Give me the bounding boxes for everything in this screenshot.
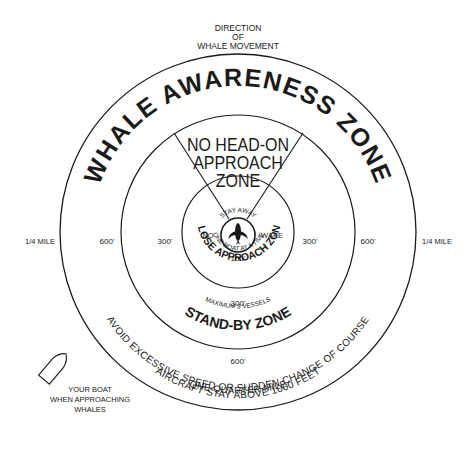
- boat-legend-line1: YOUR BOAT: [68, 385, 112, 394]
- bottom-600ft-label: 600': [231, 357, 246, 366]
- left-300ft-label: 300': [158, 237, 173, 246]
- left-600ft-label: 600': [100, 237, 115, 246]
- direction-label-line3: WHALE MOVEMENT: [197, 41, 279, 51]
- right-300ft-label: 300': [303, 237, 318, 246]
- boat-legend-line3: WHALES: [74, 405, 106, 414]
- right-quarter-mile-label: 1/4 MILE: [422, 237, 452, 246]
- left-quarter-mile-label: 1/4 MILE: [25, 237, 55, 246]
- boat-legend-line2: WHEN APPROACHING: [50, 395, 130, 404]
- whale-approach-diagram: DIRECTION OF WHALE MOVEMENT WHALE AWAREN…: [0, 0, 475, 452]
- whale-icon: [228, 223, 248, 245]
- right-600ft-label: 600': [361, 237, 376, 246]
- no-head-on-line3: ZONE: [216, 170, 261, 192]
- boat-icon: [39, 349, 72, 384]
